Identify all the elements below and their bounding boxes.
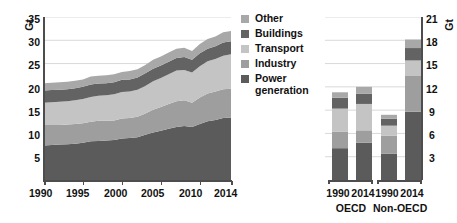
bar-segment-transport	[405, 60, 421, 76]
group-label-oecd: OECD	[331, 203, 371, 214]
right-ytick-6: 6	[429, 130, 435, 141]
group-label-nonoecd: Non-OECD	[373, 203, 425, 214]
bar-segment-buildings	[405, 48, 421, 60]
bar-segment-power-generation	[356, 143, 372, 180]
legend-swatch-icon	[241, 15, 249, 23]
legend-item[interactable]: Industry	[241, 58, 327, 70]
left-ytick-35: 35	[26, 14, 40, 25]
left-xtick-1990: 1990	[29, 188, 52, 199]
bar-label-nonoecd-2014: 2014	[398, 188, 426, 199]
x-tick-mark	[83, 181, 85, 185]
bar-label-oecd-1990: 1990	[324, 188, 352, 199]
bar-segment-buildings	[381, 119, 397, 126]
x-tick-mark	[161, 181, 163, 185]
right-ytick-12: 12	[426, 84, 438, 95]
figure-root: Gt 35 30 25 20 15 10 5 1990 1995 2000 20…	[0, 0, 457, 223]
bar-segment-power-generation	[332, 148, 348, 180]
left-y-axis-line	[43, 17, 45, 180]
bar-segment-buildings	[356, 94, 372, 104]
legend-item-label: Transport	[255, 43, 303, 55]
oecd-rule-tick-left	[328, 180, 330, 184]
left-xtick-2005: 2005	[141, 188, 164, 199]
left-xtick-1995: 1995	[66, 188, 89, 199]
right-ytick-18: 18	[426, 37, 438, 48]
left-ytick-5: 5	[32, 153, 40, 164]
left-ytick-10: 10	[26, 130, 40, 141]
bar-segment-transport	[356, 104, 372, 130]
legend-item[interactable]: Power generation	[241, 73, 327, 96]
nonoecd-group-rule	[377, 180, 421, 182]
legend-item[interactable]: Buildings	[241, 28, 327, 40]
bar-segment-other	[381, 115, 397, 119]
right-ytick-21: 21	[426, 14, 438, 25]
bar-segment-power-generation	[405, 112, 421, 180]
left-ytick-30: 30	[26, 37, 40, 48]
bar-segment-power-generation	[381, 154, 397, 180]
x-tick-mark	[200, 181, 202, 185]
left-xtick-2014: 2014	[214, 188, 237, 199]
legend-item-label: Power generation	[255, 73, 309, 96]
legend-item-label: Buildings	[255, 28, 303, 40]
left-xtick-2010: 2010	[179, 188, 202, 199]
bar-segment-industry	[332, 132, 348, 148]
bar-segment-transport	[381, 126, 397, 136]
left-ytick-15: 15	[26, 107, 40, 118]
x-tick-mark	[231, 181, 233, 185]
legend-item-label: Industry	[255, 58, 296, 70]
area-plot-region	[44, 17, 231, 180]
bar-segment-other	[405, 40, 421, 49]
stacked-area-svg	[44, 17, 231, 180]
bar-chart-panel: Gt 21 18 15 12 9 6 3 1990 2014 1990 2014…	[325, 0, 457, 223]
legend-item[interactable]: Transport	[241, 43, 327, 55]
left-x-axis-line	[43, 180, 232, 182]
bar-segment-buildings	[332, 98, 348, 109]
legend-item[interactable]: Other	[241, 13, 327, 25]
x-tick-mark	[44, 181, 46, 185]
right-ytick-9: 9	[429, 107, 435, 118]
oecd-rule-tick-right	[371, 180, 373, 184]
bar-segment-industry	[356, 130, 372, 142]
legend-swatch-icon	[241, 75, 249, 83]
legend-swatch-icon	[241, 45, 249, 53]
right-ytick-3: 3	[429, 153, 435, 164]
bar-segment-industry	[381, 136, 397, 154]
bar-segment-transport	[332, 109, 348, 132]
bar-segment-other	[332, 92, 348, 97]
right-y-axis-line	[421, 17, 423, 180]
legend-item-label: Other	[255, 13, 283, 25]
bar-plot-region	[325, 17, 422, 180]
oecd-group-rule	[328, 180, 372, 182]
bar-label-nonoecd-1990: 1990	[373, 188, 401, 199]
legend-swatch-icon	[241, 30, 249, 38]
legend-swatch-icon	[241, 60, 249, 68]
area-chart-panel: Gt 35 30 25 20 15 10 5 1990 1995 2000 20…	[0, 0, 243, 223]
stacked-bar-svg	[325, 17, 422, 180]
bar-segment-other	[356, 87, 372, 94]
nonoecd-rule-tick-right	[420, 180, 422, 184]
left-ytick-20: 20	[26, 84, 40, 95]
bar-segment-industry	[405, 76, 421, 112]
legend: OtherBuildingsTransportIndustryPower gen…	[241, 13, 327, 96]
x-tick-mark	[122, 181, 124, 185]
right-ytick-15: 15	[426, 60, 438, 71]
left-xtick-2000: 2000	[104, 188, 127, 199]
nonoecd-rule-tick-left	[377, 180, 379, 184]
right-axis-unit-label: Gt	[444, 19, 455, 31]
area-bands	[44, 31, 231, 180]
left-ytick-25: 25	[26, 60, 40, 71]
